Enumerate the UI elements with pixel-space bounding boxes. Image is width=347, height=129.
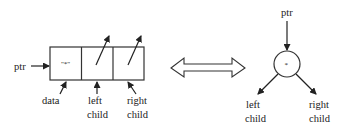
ptr-label-right: ptr xyxy=(281,7,293,18)
left-child-edge-arrow xyxy=(258,74,278,94)
data-cell-value: "*" xyxy=(61,60,70,68)
right-child-label-line1: right xyxy=(127,95,147,106)
tree-node-value: * xyxy=(285,61,289,69)
tree-left-child-label-line1: left xyxy=(246,99,260,110)
tree-node-representation: ptr * left child right child xyxy=(245,7,331,124)
left-child-label-line2: child xyxy=(87,109,109,120)
record-node-representation: ptr "*" data left child right child xyxy=(14,36,149,120)
right-child-edge-arrow xyxy=(296,74,316,94)
double-arrow-icon xyxy=(171,58,245,77)
tree-right-child-label-line2: child xyxy=(309,113,331,124)
tree-left-child-label-line2: child xyxy=(245,113,267,124)
tree-right-child-label-line1: right xyxy=(309,99,329,110)
right-child-label-line2: child xyxy=(127,109,149,120)
data-label: data xyxy=(42,95,60,106)
data-label-arrow xyxy=(60,82,66,94)
left-child-label-line1: left xyxy=(88,95,102,106)
tree-node-representation-diagram: ptr "*" data left child right child ptr … xyxy=(0,0,347,129)
right-label-arrow xyxy=(128,82,136,94)
ptr-label-left: ptr xyxy=(14,61,26,72)
